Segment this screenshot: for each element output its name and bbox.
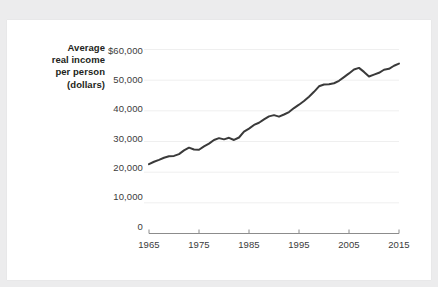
income-line-chart: Average real income per person (dollars)… <box>7 20 431 280</box>
figure-card: Average real income per person (dollars)… <box>7 20 431 280</box>
income-data-line <box>149 64 399 165</box>
screenshot-root: Average real income per person (dollars)… <box>0 0 438 287</box>
x-axis-ticks <box>149 230 399 234</box>
plot-area <box>7 20 431 280</box>
gridlines <box>144 50 399 203</box>
